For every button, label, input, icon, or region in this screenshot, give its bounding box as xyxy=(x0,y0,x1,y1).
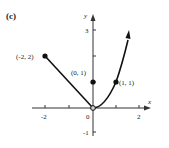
tick-label-x-2: 2 xyxy=(137,113,141,121)
tick-label-y-neg1: -1 xyxy=(83,129,89,137)
tick-label-y-3: 3 xyxy=(85,27,89,35)
line-segment xyxy=(45,56,93,108)
panel-label: (c) xyxy=(6,11,16,21)
tick-label-x-neg2: -2 xyxy=(41,113,47,121)
x-axis-arrow-icon xyxy=(144,106,151,111)
y-axis-label: y xyxy=(83,12,88,20)
parabola-curve xyxy=(93,40,128,108)
tick-label-x-0: 0 xyxy=(86,113,90,121)
point-neg2-2 xyxy=(42,53,47,58)
point-0-1 xyxy=(90,79,95,84)
y-axis-arrow-icon xyxy=(91,14,96,21)
point-label-neg2-2: (-2, 2) xyxy=(16,53,34,61)
curve-arrow-icon xyxy=(126,30,131,39)
point-1-1 xyxy=(113,79,118,84)
piecewise-graph: (c) x y -2 0 2 3 -1 (-2, 2) (0, 1) (1, 1… xyxy=(0,0,169,148)
point-label-0-1: (0, 1) xyxy=(71,69,87,77)
open-point-origin xyxy=(91,106,96,111)
x-axis-label: x xyxy=(147,98,152,106)
point-label-1-1: (1, 1) xyxy=(119,79,135,87)
